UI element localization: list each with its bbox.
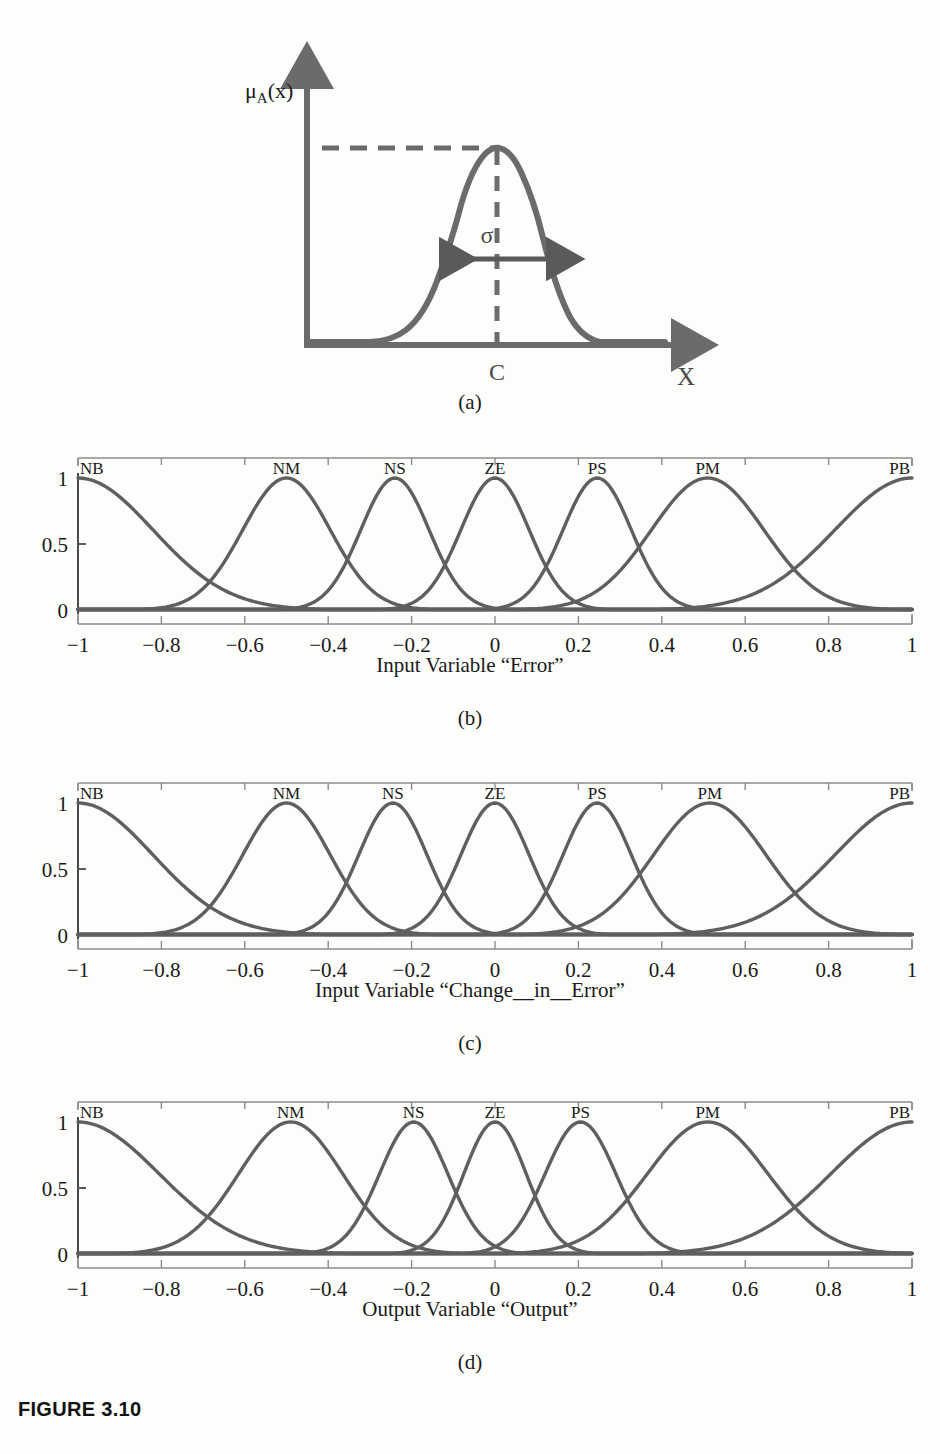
set-label-pm: PM [695, 459, 720, 478]
membership-curve-nm [78, 803, 912, 935]
membership-curve-nm [78, 478, 912, 610]
set-label-pb: PB [889, 459, 910, 478]
panel-d-output-membership: 00.51−1−0.8−0.6−0.4−0.200.20.40.60.81NBN… [0, 1082, 940, 1392]
panel-b-error-membership: 00.51−1−0.8−0.6−0.4−0.200.20.40.60.81NBN… [0, 438, 940, 748]
panel-a-sigma-label: σ [481, 222, 494, 248]
panel-b-chart: 00.51−1−0.8−0.6−0.4−0.200.20.40.60.81NBN… [0, 438, 940, 678]
x-axis [78, 939, 912, 949]
y-tick-label: 1 [58, 792, 69, 816]
set-label-nm: NM [273, 459, 300, 478]
panel-a-y-axis-label: μA(x) [245, 78, 293, 106]
panel-c-change-in-error-membership: 00.51−1−0.8−0.6−0.4−0.200.20.40.60.81NBN… [0, 763, 940, 1073]
membership-curve-pm [78, 1122, 912, 1254]
panel-b-caption: (b) [0, 706, 940, 731]
set-label-ns: NS [403, 1103, 425, 1122]
set-label-pm: PM [695, 1103, 720, 1122]
y-axis: 00.51 [42, 467, 86, 623]
panel-c-axis-title: Input Variable “Change__in__Error” [0, 978, 940, 1003]
membership-curve-ps [78, 1122, 912, 1254]
x-axis [78, 614, 912, 624]
y-tick-label: 1 [58, 467, 69, 491]
membership-curve-nm [78, 1122, 912, 1254]
figure-caption: FIGURE 3.10 [18, 1398, 141, 1421]
set-label-nb: NB [80, 1103, 104, 1122]
y-axis: 00.51 [42, 792, 86, 948]
y-tick-label: 0.5 [42, 1177, 68, 1201]
y-tick-label: 0 [58, 1243, 69, 1267]
set-label-ze: ZE [485, 1103, 506, 1122]
membership-curve-ns [78, 1122, 912, 1254]
set-label-ps: PS [588, 459, 607, 478]
y-tick-label: 1 [58, 1111, 69, 1135]
panel-a-gaussian-diagram: σ C X μA(x) (a) [0, 0, 940, 430]
set-label-nm: NM [273, 784, 300, 803]
panel-b-axis-title: Input Variable “Error” [0, 653, 940, 678]
set-label-ps: PS [571, 1103, 590, 1122]
set-label-ns: NS [384, 459, 406, 478]
y-tick-label: 0 [58, 599, 69, 623]
y-axis: 00.51 [42, 1111, 86, 1267]
panel-a-x-axis-label: X [677, 363, 695, 390]
set-label-nm: NM [277, 1103, 304, 1122]
x-axis [78, 1258, 912, 1268]
set-label-ze: ZE [485, 784, 506, 803]
panel-d-caption: (d) [0, 1350, 940, 1375]
set-label-ps: PS [588, 784, 607, 803]
panel-c-chart: 00.51−1−0.8−0.6−0.4−0.200.20.40.60.81NBN… [0, 763, 940, 1003]
set-label-nb: NB [80, 784, 104, 803]
panel-a-center-label: C [489, 359, 505, 385]
panel-d-chart: 00.51−1−0.8−0.6−0.4−0.200.20.40.60.81NBN… [0, 1082, 940, 1322]
set-label-nb: NB [80, 459, 104, 478]
panel-c-caption: (c) [0, 1031, 940, 1056]
gaussian-membership-diagram: σ C X μA(x) [0, 0, 940, 400]
membership-curve-pb [78, 1122, 912, 1254]
set-label-pm: PM [697, 784, 722, 803]
set-label-pb: PB [889, 1103, 910, 1122]
membership-curve-ze [78, 1122, 912, 1254]
y-tick-label: 0 [58, 924, 69, 948]
set-label-ns: NS [382, 784, 404, 803]
set-label-pb: PB [889, 784, 910, 803]
membership-curve-nb [78, 1122, 912, 1254]
set-label-ze: ZE [485, 459, 506, 478]
y-tick-label: 0.5 [42, 533, 68, 557]
panel-d-axis-title: Output Variable “Output” [0, 1297, 940, 1322]
panel-a-caption: (a) [0, 390, 940, 415]
y-tick-label: 0.5 [42, 858, 68, 882]
